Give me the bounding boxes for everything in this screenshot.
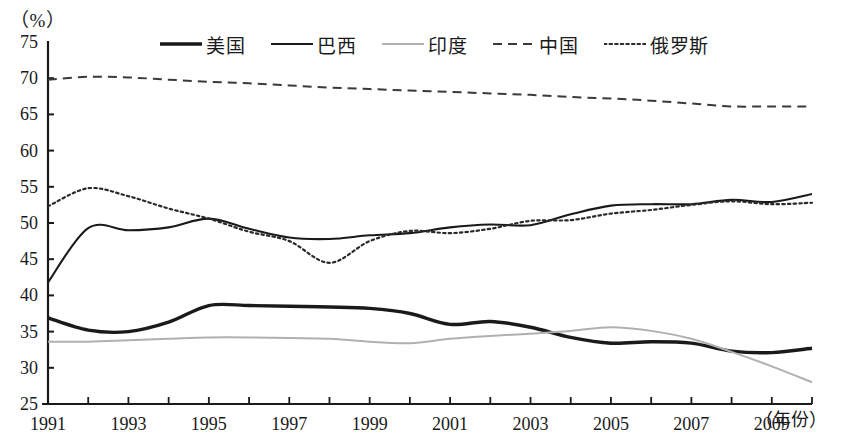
- legend-item-4[interactable]: 俄罗斯: [604, 31, 709, 58]
- legend-item-2[interactable]: 印度: [382, 31, 467, 58]
- x-tick-label-1993: 1993: [110, 414, 146, 434]
- series-line-3: [48, 77, 812, 107]
- x-axis-title: （年份）: [755, 405, 827, 431]
- legend-label-4: 俄罗斯: [650, 31, 709, 58]
- legend-swatch-4: [604, 38, 646, 50]
- y-tick-label-40: 40: [20, 285, 38, 305]
- series-line-2: [48, 327, 812, 382]
- legend-item-1[interactable]: 巴西: [271, 31, 356, 58]
- y-tick-label-55: 55: [20, 177, 38, 197]
- legend-label-2: 印度: [428, 31, 467, 58]
- x-tick-label-2003: 2003: [513, 414, 549, 434]
- legend-item-0[interactable]: 美国: [160, 31, 245, 58]
- legend-label-3: 中国: [539, 31, 578, 58]
- y-tick-label-50: 50: [20, 213, 38, 233]
- y-tick-label-65: 65: [20, 104, 38, 124]
- chart-plot-area: 2530354045505560657075199119931995199719…: [0, 0, 851, 439]
- x-tick-label-2001: 2001: [432, 414, 468, 434]
- x-tick-label-1999: 1999: [352, 414, 388, 434]
- series-line-0: [48, 304, 812, 353]
- x-tick-label-1997: 1997: [271, 414, 307, 434]
- x-tick-label-2007: 2007: [673, 414, 709, 434]
- x-tick-label-1995: 1995: [191, 414, 227, 434]
- series-line-1: [48, 194, 812, 282]
- y-axis-unit-label: （%）: [10, 5, 65, 32]
- y-tick-label-75: 75: [20, 32, 38, 52]
- y-tick-label-45: 45: [20, 249, 38, 269]
- chart-legend: 美国巴西印度中国俄罗斯: [160, 30, 709, 58]
- y-tick-label-30: 30: [20, 358, 38, 378]
- series-line-4: [48, 188, 812, 263]
- legend-label-0: 美国: [206, 31, 245, 58]
- x-tick-label-2005: 2005: [593, 414, 629, 434]
- legend-swatch-1: [271, 38, 313, 50]
- y-tick-label-60: 60: [20, 141, 38, 161]
- y-tick-label-70: 70: [20, 68, 38, 88]
- legend-label-1: 巴西: [317, 31, 356, 58]
- x-tick-label-1991: 1991: [30, 414, 66, 434]
- legend-item-3[interactable]: 中国: [493, 31, 578, 58]
- legend-swatch-2: [382, 38, 424, 50]
- y-tick-label-25: 25: [20, 394, 38, 414]
- line-chart: （%） 美国巴西印度中国俄罗斯 253035404550556065707519…: [0, 0, 851, 439]
- legend-swatch-0: [160, 38, 202, 50]
- legend-swatch-3: [493, 38, 535, 50]
- y-tick-label-35: 35: [20, 322, 38, 342]
